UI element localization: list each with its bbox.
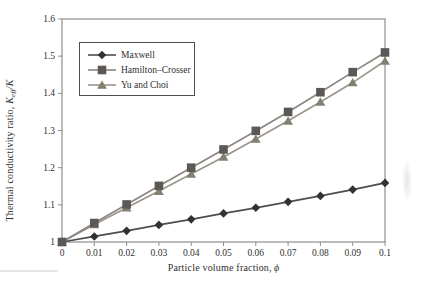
y-axis-variable: K <box>4 97 15 104</box>
x-tick-label: 0 <box>60 248 65 258</box>
y-axis-title-text: Thermal conductivity ratio, <box>4 104 15 222</box>
data-point-yu-and-choi <box>283 116 293 124</box>
data-point-maxwell <box>155 221 164 230</box>
data-point-yu-and-choi <box>380 56 390 64</box>
x-tick-label: 0.01 <box>86 248 103 258</box>
data-point-hamilton-crosser <box>316 88 325 97</box>
y-tick-label: 1 <box>50 237 55 247</box>
data-point-maxwell <box>316 192 325 201</box>
x-axis-title-text: Particle volume fraction, <box>168 262 274 273</box>
x-tick-label: 0.1 <box>379 248 391 258</box>
data-point-maxwell <box>219 209 228 218</box>
y-axis-title: Thermal conductivity ratio, Keff/K <box>4 45 17 257</box>
scan-smudge-artifact <box>402 158 412 204</box>
y-tick-label: 1.5 <box>43 51 55 61</box>
data-point-hamilton-crosser <box>58 238 67 247</box>
x-tick-label: 0.09 <box>344 248 361 258</box>
data-point-maxwell <box>284 198 293 207</box>
data-point-hamilton-crosser <box>381 48 390 57</box>
x-tick-label: 0.07 <box>280 248 297 258</box>
x-tick-label: 0.05 <box>215 248 232 258</box>
data-point-hamilton-crosser <box>187 163 196 172</box>
legend-item-hamilton-crosser: Hamilton–Crosser <box>87 62 194 77</box>
y-tick-label: 1.2 <box>43 163 55 173</box>
y-tick-label: 1.6 <box>43 14 55 24</box>
data-point-yu-and-choi <box>348 78 358 86</box>
x-tick-label: 0.03 <box>151 248 168 258</box>
y-tick-label: 1.3 <box>43 126 55 136</box>
data-point-hamilton-crosser <box>155 182 164 191</box>
data-point-hamilton-crosser <box>284 108 293 117</box>
y-tick-label: 1.4 <box>43 88 55 98</box>
y-axis-suffix: /K <box>4 79 15 89</box>
data-point-hamilton-crosser <box>348 68 357 77</box>
data-point-yu-and-choi <box>316 97 326 105</box>
data-point-maxwell <box>348 185 357 194</box>
x-axis-title: Particle volume fraction, ϕ <box>62 262 385 273</box>
data-point-maxwell <box>187 215 196 224</box>
chart-figure: 00.010.020.030.040.050.060.070.080.090.1… <box>0 0 423 289</box>
diamond-marker-icon <box>87 50 117 60</box>
data-point-yu-and-choi <box>251 134 261 142</box>
data-point-maxwell <box>122 227 131 236</box>
scan-streak-artifact <box>0 270 58 272</box>
legend-item-maxwell: Maxwell <box>87 47 194 62</box>
data-point-hamilton-crosser <box>219 145 228 154</box>
data-point-maxwell <box>90 232 99 241</box>
legend-label: Maxwell <box>117 50 155 60</box>
triangle-marker-icon <box>87 80 117 90</box>
x-tick-label: 0.06 <box>247 248 264 258</box>
x-tick-label: 0.04 <box>183 248 200 258</box>
x-tick-label: 0.08 <box>312 248 329 258</box>
x-tick-label: 0.02 <box>118 248 135 258</box>
y-tick-label: 1.1 <box>43 200 55 210</box>
y-axis-subscript: eff <box>9 89 17 97</box>
legend-item-yu-and-choi: Yu and Choi <box>87 77 194 92</box>
square-marker-icon <box>87 65 117 75</box>
legend-box: MaxwellHamilton–CrosserYu and Choi <box>79 42 195 96</box>
data-point-maxwell <box>252 204 261 213</box>
legend-label: Yu and Choi <box>117 80 169 90</box>
phi-symbol: ϕ <box>274 262 279 273</box>
data-point-hamilton-crosser <box>90 219 99 228</box>
data-point-hamilton-crosser <box>252 127 261 136</box>
plot-area: 00.010.020.030.040.050.060.070.080.090.1… <box>0 0 423 289</box>
legend-label: Hamilton–Crosser <box>117 65 191 75</box>
data-point-maxwell <box>381 179 390 188</box>
data-point-hamilton-crosser <box>122 200 131 209</box>
